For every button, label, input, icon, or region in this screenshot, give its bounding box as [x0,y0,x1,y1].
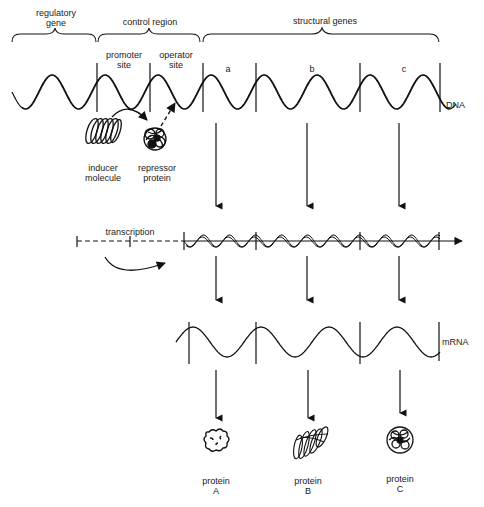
binding-arrow [112,109,147,120]
protein-a-line2: A [196,486,236,496]
repressor-protein-label: repressor protein [132,163,182,183]
brace-structural-genes [203,28,439,42]
operon-diagram [0,0,484,507]
transcription-label: transcription [100,227,160,237]
structural-genes-label: structural genes [280,16,370,26]
dna-label: DNA [446,100,470,110]
repressor-line2: protein [132,173,182,183]
gene-b-label: b [306,64,318,74]
promoter-line2: site [100,60,148,70]
protein-a-label: protein A [196,476,236,496]
protein-b-line1: protein [288,476,328,486]
promoter-site-label: promoter site [100,50,148,70]
regulatory-gene-line1: regulatory [28,8,84,18]
inducer-molecule-icon [83,117,123,145]
protein-a-icon [204,429,229,451]
protein-c-line2: C [380,484,420,494]
inducer-molecule-label: inducer molecule [78,163,128,183]
inducer-line1: inducer [78,163,128,173]
dna-segment-dividers [97,63,440,112]
protein-a-line1: protein [196,476,236,486]
operator-line1: operator [152,50,200,60]
mrna-strand [176,327,440,357]
inducer-line2: molecule [78,173,128,183]
brace-regulatory-gene [12,28,96,42]
translation-arrows-1 [216,256,399,300]
operator-site-label: operator site [152,50,200,70]
protein-c-line1: protein [380,474,420,484]
transcription-arrow [105,257,165,270]
repressor-protein-icon [144,128,166,150]
dna-helix [12,75,456,109]
mrna-label: mRNA [442,337,472,347]
protein-c-label: protein C [380,474,420,494]
regulatory-gene-line2: gene [28,18,84,28]
protein-b-line2: B [288,486,328,496]
promoter-line1: promoter [100,50,148,60]
regulatory-gene-label: regulatory gene [28,8,84,28]
protein-b-icon [292,425,330,459]
protein-c-icon [387,427,413,453]
protein-b-label: protein B [288,476,328,496]
repressor-line1: repressor [132,163,182,173]
transcription-arrows [216,123,399,206]
control-region-label: control region [110,17,190,27]
operator-line2: site [152,60,200,70]
brace-control-region [98,28,200,42]
translation-arrows-2 [216,370,400,418]
gene-c-label: c [398,64,410,74]
gene-a-label: a [222,64,234,74]
repressor-binding-arrow [161,103,175,126]
